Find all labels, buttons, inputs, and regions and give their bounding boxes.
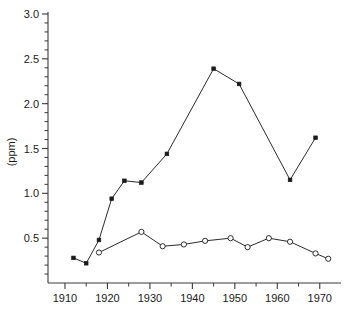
data-point bbox=[266, 236, 271, 241]
x-tick-label: 1910 bbox=[53, 292, 77, 304]
data-point bbox=[84, 261, 88, 265]
x-tick-label: 1920 bbox=[95, 292, 119, 304]
x-tick-label: 1930 bbox=[138, 292, 162, 304]
y-tick-label: 0.5 bbox=[24, 232, 39, 244]
data-point bbox=[314, 136, 318, 140]
y-tick-label: 3.0 bbox=[24, 8, 39, 20]
data-point bbox=[160, 244, 165, 249]
data-point bbox=[245, 245, 250, 250]
line-chart: 0.51.01.52.02.53.0 191019201930194019501… bbox=[0, 0, 349, 309]
x-axis: 1910192019301940195019601970 bbox=[48, 283, 341, 304]
series-upper-series bbox=[72, 67, 318, 265]
series-line bbox=[99, 232, 328, 259]
x-tick-label: 1950 bbox=[223, 292, 247, 304]
y-tick-label: 1.5 bbox=[24, 143, 39, 155]
data-point bbox=[96, 250, 101, 255]
series-lower-series bbox=[96, 229, 331, 261]
y-tick-label: 2.0 bbox=[24, 98, 39, 110]
data-point bbox=[203, 238, 208, 243]
data-point bbox=[97, 238, 101, 242]
data-point bbox=[123, 179, 127, 183]
plot-area bbox=[72, 67, 331, 265]
data-point bbox=[228, 236, 233, 241]
data-point bbox=[181, 242, 186, 247]
data-point bbox=[139, 229, 144, 234]
y-tick-label: 1.0 bbox=[24, 187, 39, 199]
data-point bbox=[287, 239, 292, 244]
data-point bbox=[237, 82, 241, 86]
chart-container: 0.51.01.52.02.53.0 191019201930194019501… bbox=[0, 0, 349, 309]
data-point bbox=[72, 256, 76, 260]
data-point bbox=[110, 197, 114, 201]
data-point bbox=[326, 256, 331, 261]
data-point bbox=[165, 152, 169, 156]
y-tick-label: 2.5 bbox=[24, 53, 39, 65]
data-point bbox=[212, 67, 216, 71]
data-point bbox=[140, 181, 144, 185]
y-axis-title: (ppm) bbox=[5, 138, 17, 167]
series-line bbox=[73, 69, 315, 264]
y-axis: 0.51.01.52.02.53.0 bbox=[24, 8, 48, 283]
data-point bbox=[288, 178, 292, 182]
x-tick-label: 1960 bbox=[265, 292, 289, 304]
x-tick-label: 1940 bbox=[180, 292, 204, 304]
data-point bbox=[313, 251, 318, 256]
x-tick-label: 1970 bbox=[308, 292, 332, 304]
